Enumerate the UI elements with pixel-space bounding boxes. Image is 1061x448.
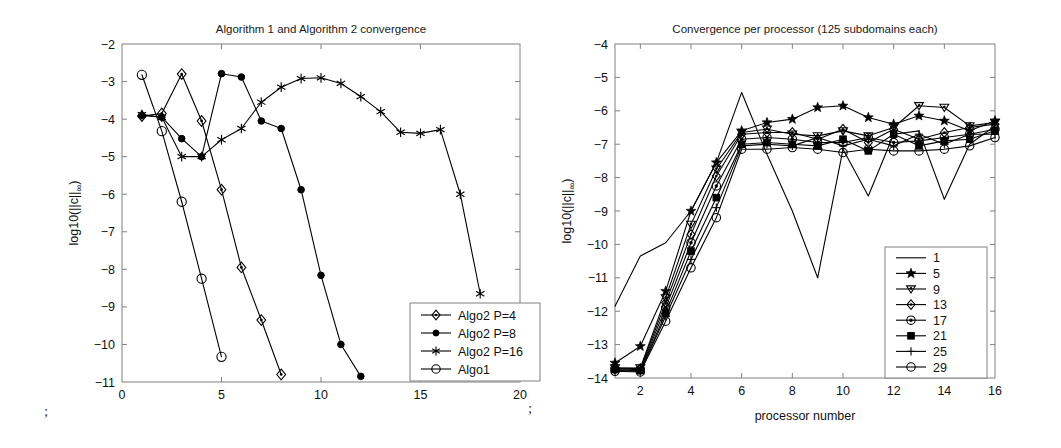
legend-label: 21 (933, 329, 947, 343)
left-ytick-label: −11 (95, 376, 115, 390)
left-ytick-label: −5 (101, 150, 115, 164)
right-xtick-label: 4 (688, 384, 695, 398)
left-chart-panel: Algorithm 1 and Algorithm 2 convergence0… (0, 0, 545, 448)
left-ytick-label: −7 (101, 225, 115, 239)
left-ytick-label: −10 (94, 338, 115, 352)
left-xtick-label: 0 (119, 388, 126, 402)
right-ytick-label: −4 (594, 38, 608, 52)
right-ytick-label: −8 (594, 171, 608, 185)
legend-label: 13 (933, 298, 947, 312)
right-xtick-label: 12 (887, 384, 901, 398)
legend-label: 29 (933, 361, 947, 375)
right-xtick-label: 16 (988, 384, 1002, 398)
right-xtick-label: 8 (789, 384, 796, 398)
right-xtick-label: 6 (738, 384, 745, 398)
svg-text:log10(||c||∞): log10(||c||∞) (560, 179, 577, 244)
right-ytick-label: −5 (594, 71, 608, 85)
series-left-1 (139, 70, 365, 379)
right-ytick-label: −13 (587, 338, 608, 352)
left-xtick-label: 5 (218, 388, 225, 402)
legend-label: 25 (933, 345, 947, 359)
left-xtick-label: 10 (314, 388, 328, 402)
left-xtick-label: 20 (513, 388, 527, 402)
legend-label: Algo1 (458, 363, 490, 377)
svg-text:log10(||c||∞): log10(||c||∞) (67, 181, 84, 246)
right-xtick-label: 14 (937, 384, 951, 398)
left-chart-svg: Algorithm 1 and Algorithm 2 convergence0… (0, 0, 545, 448)
right-ytick-label: −7 (594, 138, 608, 152)
right-ytick-label: −12 (587, 305, 608, 319)
right-ytick-label: −9 (594, 205, 608, 219)
right-ytick-label: −6 (594, 104, 608, 118)
stray-mark-left: ; (44, 404, 48, 419)
left-ytick-label: −4 (101, 113, 115, 127)
right-xlabel: processor number (755, 409, 856, 423)
right-chart-panel: Convergence per processor (125 subdomain… (545, 0, 1061, 448)
legend-label: 17 (933, 314, 947, 328)
series-left-2 (138, 73, 485, 299)
legend-label: Algo2 P=4 (458, 309, 516, 323)
left-chart-title: Algorithm 1 and Algorithm 2 convergence (216, 23, 426, 35)
left-ytick-label: −6 (101, 188, 115, 202)
left-ytick-label: −9 (101, 300, 115, 314)
right-ylabel: log10(||c||∞) (560, 179, 577, 244)
stray-mark-right: ; (528, 401, 532, 416)
legend-label: Algo2 P=16 (458, 345, 523, 359)
legend-label: 1 (933, 251, 940, 265)
series-left-3 (137, 70, 226, 361)
legend-label: 9 (933, 283, 940, 297)
right-legend[interactable]: 1591317212529 (885, 247, 987, 378)
figure-canvas: Algorithm 1 and Algorithm 2 convergence0… (0, 0, 1061, 448)
legend-label: 5 (933, 267, 940, 281)
right-ytick-label: −11 (588, 271, 608, 285)
right-chart-svg: Convergence per processor (125 subdomain… (545, 0, 1061, 448)
right-ytick-label: −10 (587, 238, 608, 252)
left-legend[interactable]: Algo2 P=4Algo2 P=8Algo2 P=16Algo1 (410, 303, 540, 381)
right-chart-title: Convergence per processor (125 subdomain… (672, 23, 937, 35)
right-xtick-label: 2 (637, 384, 644, 398)
left-ytick-label: −2 (101, 38, 115, 52)
left-ytick-label: −3 (101, 75, 115, 89)
legend-label: Algo2 P=8 (458, 327, 516, 341)
left-ytick-label: −8 (101, 263, 115, 277)
left-ylabel: log10(||c||∞) (67, 181, 84, 246)
right-ytick-label: −14 (587, 372, 608, 386)
right-xtick-label: 10 (836, 384, 850, 398)
left-xtick-label: 15 (414, 388, 428, 402)
